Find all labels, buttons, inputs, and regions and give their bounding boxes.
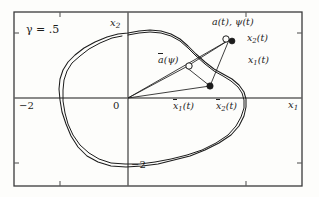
label-xbar1-of-t: x1(t) (173, 101, 194, 113)
label-x1-of-t-suffix: (t) (258, 54, 269, 65)
label-abar-of-psi-suffix: (ψ) (164, 54, 179, 65)
vector-origin-to-xbar (128, 86, 210, 98)
marker-abar-psi (186, 63, 192, 69)
label-xbar2-of-t: x2(t) (216, 101, 237, 113)
label-abar-of-psi-base: a (158, 55, 164, 65)
vector-abar-to-a (186, 40, 229, 67)
label-x1-of-t: x1(t) (248, 55, 269, 67)
x-axis-label: x1 (288, 100, 298, 111)
marker-a-t-psi-t (223, 36, 229, 42)
vector-a-to-xbar (210, 40, 229, 86)
label-abar-of-psi: a(ψ) (158, 55, 179, 65)
y-axis-label: x2 (110, 18, 120, 29)
marker-x-t (229, 38, 235, 44)
origin-label: 0 (113, 101, 119, 111)
label-xbar1-of-t-base: x (173, 101, 178, 111)
label-a-psi-of-t: a(t), ψ(t) (212, 17, 254, 27)
label-xbar2-of-t-suffix: (t) (226, 100, 237, 111)
marker-xbar-t (207, 83, 213, 89)
y-tick-label-neg2: −2 (131, 160, 146, 170)
x-axis-label-sub: 1 (294, 103, 299, 112)
x-tick-label-neg2: −2 (19, 101, 34, 111)
phase-plane-figure: γ = .5 x2 x1 −2 0 −2 a(t), ψ(t) x2(t) x1… (0, 0, 319, 197)
parameter-annotation: γ = .5 (26, 24, 59, 35)
vector-abar-to-xbar (186, 67, 210, 86)
label-xbar1-of-t-suffix: (t) (183, 100, 194, 111)
label-xbar2-of-t-base: x (216, 101, 221, 111)
label-x2-of-t-suffix: (t) (257, 32, 268, 43)
label-x2-of-t: x2(t) (247, 33, 268, 45)
y-axis-label-sub: 2 (116, 21, 121, 30)
